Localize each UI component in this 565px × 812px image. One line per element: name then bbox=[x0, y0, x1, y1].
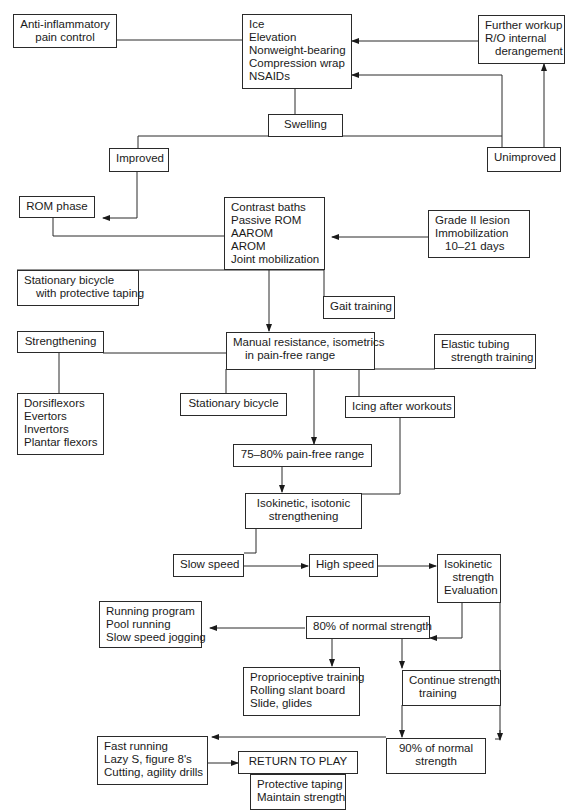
node-line: Rolling slant board bbox=[250, 684, 353, 697]
node-line: pain control bbox=[20, 31, 110, 44]
node-line: Improved bbox=[116, 152, 162, 165]
node-line: Maintain strength bbox=[257, 791, 339, 804]
node-further-workup: Further workup R/O internal derangement bbox=[478, 15, 565, 64]
node-line: derangement bbox=[485, 45, 558, 58]
node-unimproved: Unimproved bbox=[487, 147, 561, 172]
node-icing: Icing after workouts bbox=[345, 396, 455, 418]
node-line: with protective taping bbox=[24, 287, 132, 300]
node-line: Evaluation bbox=[444, 584, 494, 597]
node-high-speed: High speed bbox=[309, 554, 378, 577]
node-line: 75–80% pain-free range bbox=[240, 448, 365, 461]
node-fast-running: Fast running Lazy S, figure 8's Cutting,… bbox=[97, 736, 208, 785]
node-line: Cutting, agility drills bbox=[104, 766, 201, 779]
node-continue-strength: Continue strength training bbox=[402, 670, 501, 706]
node-maintain: Protective taping Maintain strength bbox=[250, 774, 346, 810]
node-isokinetic-isotonic: Isokinetic, isotonic strengthening bbox=[245, 493, 362, 529]
node-grade2-lesion: Grade II lesion Immobilization 10–21 day… bbox=[428, 210, 530, 258]
node-line: Running program bbox=[106, 605, 195, 618]
node-stationary-taping: Stationary bicycle with protective tapin… bbox=[17, 270, 139, 306]
node-manual-resistance: Manual resistance, isometrics in pain-fr… bbox=[226, 332, 375, 370]
node-isokinetic-eval: Isokinetic strength Evaluation bbox=[437, 554, 501, 603]
node-line: strength bbox=[444, 571, 494, 584]
node-pain-free-75: 75–80% pain-free range bbox=[233, 444, 372, 467]
node-improved: Improved bbox=[109, 148, 169, 172]
node-line: Swelling bbox=[275, 118, 336, 131]
node-line: Compression wrap bbox=[249, 57, 345, 70]
node-line: strength training bbox=[441, 351, 529, 364]
node-line: Further workup bbox=[485, 19, 558, 32]
node-line: Ice bbox=[249, 18, 345, 31]
node-line: Stationary bicycle bbox=[24, 274, 132, 287]
node-contrast-block: Contrast baths Passive ROM AAROM AROM Jo… bbox=[224, 197, 325, 270]
node-line: Passive ROM bbox=[231, 214, 318, 227]
node-line: Unimproved bbox=[494, 151, 554, 164]
node-line: Joint mobilization bbox=[231, 253, 318, 266]
node-line: strength bbox=[393, 755, 479, 768]
node-anti-inflammatory: Anti-inflammatory pain control bbox=[13, 14, 117, 48]
node-line: Anti-inflammatory bbox=[20, 18, 110, 31]
node-line: Continue strength bbox=[409, 674, 494, 687]
node-line: strengthening bbox=[252, 510, 355, 523]
node-line: 10–21 days bbox=[435, 240, 523, 253]
node-line: AAROM bbox=[231, 227, 318, 240]
node-line: Evertors bbox=[24, 410, 97, 423]
node-slow-speed: Slow speed bbox=[173, 554, 244, 577]
node-line: Grade II lesion bbox=[435, 214, 523, 227]
node-line: Manual resistance, isometrics bbox=[233, 336, 368, 349]
node-line: 90% of normal bbox=[393, 742, 479, 755]
node-line: Isokinetic bbox=[444, 558, 494, 571]
node-line: Slide, glides bbox=[250, 697, 353, 710]
node-line: Icing after workouts bbox=[352, 400, 448, 413]
node-normal-90: 90% of normal strength bbox=[386, 738, 486, 774]
node-line: Gait training bbox=[330, 300, 388, 313]
node-line: RETURN TO PLAY bbox=[245, 755, 351, 768]
node-line: Slow speed bbox=[180, 558, 237, 571]
node-line: Lazy S, figure 8's bbox=[104, 753, 201, 766]
node-line: Contrast baths bbox=[231, 201, 318, 214]
node-line: Pool running bbox=[106, 618, 195, 631]
node-line: Invertors bbox=[24, 423, 97, 436]
node-line: AROM bbox=[231, 240, 318, 253]
node-line: High speed bbox=[316, 558, 371, 571]
node-line: training bbox=[409, 687, 494, 700]
node-line: R/O internal bbox=[485, 32, 558, 45]
node-line: Elevation bbox=[249, 31, 345, 44]
node-line: Fast running bbox=[104, 740, 201, 753]
node-line: ROM phase bbox=[26, 200, 88, 213]
node-gait-training: Gait training bbox=[323, 296, 395, 319]
node-muscle-groups: Dorsiflexors Evertors Invertors Plantar … bbox=[17, 393, 104, 455]
node-proprioceptive: Proprioceptive training Rolling slant bo… bbox=[243, 667, 360, 716]
node-running-program: Running program Pool running Slow speed … bbox=[99, 601, 202, 648]
node-strengthening: Strengthening bbox=[17, 331, 104, 353]
node-stationary-bicycle: Stationary bicycle bbox=[180, 393, 287, 416]
node-line: NSAIDs bbox=[249, 70, 345, 83]
node-line: Slow speed jogging bbox=[106, 631, 195, 644]
node-line: Protective taping bbox=[257, 778, 339, 791]
node-line: Stationary bicycle bbox=[187, 397, 280, 410]
node-swelling: Swelling bbox=[268, 114, 343, 137]
node-line: Nonweight-bearing bbox=[249, 44, 345, 57]
node-line: in pain-free range bbox=[233, 349, 368, 362]
node-ice-block: Ice Elevation Nonweight-bearing Compress… bbox=[242, 14, 352, 89]
node-line: Isokinetic, isotonic bbox=[252, 497, 355, 510]
node-line: Immobilization bbox=[435, 227, 523, 240]
node-line: Elastic tubing bbox=[441, 338, 529, 351]
node-line: Proprioceptive training bbox=[250, 671, 353, 684]
node-normal-80: 80% of normal strength bbox=[306, 616, 430, 639]
node-return-to-play: RETURN TO PLAY bbox=[238, 751, 358, 774]
node-line: Dorsiflexors bbox=[24, 397, 97, 410]
node-rom-phase: ROM phase bbox=[19, 196, 95, 218]
node-line: Strengthening bbox=[24, 335, 97, 348]
node-line: 80% of normal strength bbox=[313, 620, 423, 633]
flowchart-canvas: Anti-inflammatory pain control Ice Eleva… bbox=[0, 0, 565, 812]
node-elastic-tubing: Elastic tubing strength training bbox=[434, 334, 536, 369]
node-line: Plantar flexors bbox=[24, 436, 97, 449]
